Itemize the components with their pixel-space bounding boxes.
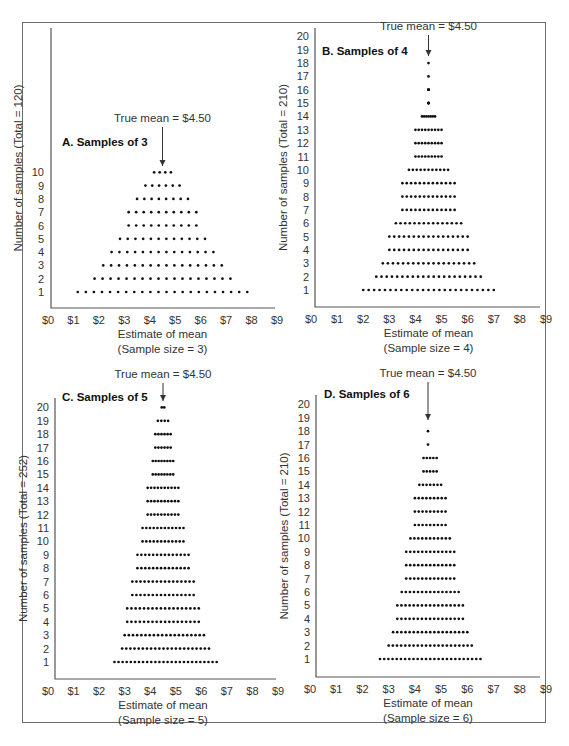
sample-dot xyxy=(408,658,411,661)
sample-dot xyxy=(165,237,168,240)
y-tick-label: 5 xyxy=(43,602,49,614)
sample-dot xyxy=(412,644,415,647)
sample-dot xyxy=(421,617,424,620)
axis-lines xyxy=(315,28,540,307)
sample-dot xyxy=(187,661,190,664)
y-tick-label: 2 xyxy=(38,273,44,285)
sample-dot xyxy=(445,591,448,594)
sample-dot xyxy=(392,631,395,634)
sample-dot xyxy=(151,473,154,476)
sample-dot xyxy=(178,634,181,637)
panel-title: B. Samples of 4 xyxy=(322,45,408,57)
sample-dot xyxy=(157,634,160,637)
sample-dot xyxy=(130,620,133,623)
y-tick-label: 4 xyxy=(38,246,44,258)
sample-dot xyxy=(396,275,399,278)
x-tick-label: $1 xyxy=(330,683,342,695)
sample-dot xyxy=(441,222,444,225)
sample-dot xyxy=(165,264,168,267)
sample-dot xyxy=(453,604,456,607)
x-tick-label: $6 xyxy=(461,683,473,695)
sample-dot xyxy=(395,289,398,292)
sample-dot xyxy=(142,251,145,254)
sample-dot xyxy=(392,262,395,265)
y-tick-label: 16 xyxy=(297,84,309,96)
sample-dot xyxy=(440,155,443,158)
sample-dot xyxy=(150,513,153,516)
sample-dot xyxy=(187,198,190,201)
sample-dot xyxy=(126,607,129,610)
sample-dot xyxy=(187,647,190,650)
sample-dot xyxy=(181,264,184,267)
sample-dot xyxy=(132,634,135,637)
sample-dot xyxy=(189,277,192,280)
sample-dot xyxy=(222,291,225,294)
sample-dot xyxy=(179,553,182,556)
sample-dot xyxy=(453,564,456,567)
sample-dot xyxy=(447,235,450,238)
sample-dot xyxy=(470,644,473,647)
sample-dot xyxy=(182,634,185,637)
sample-dot xyxy=(427,62,430,65)
sample-dot xyxy=(153,513,156,516)
y-tick-label: 10 xyxy=(297,164,309,176)
sample-dot xyxy=(437,591,440,594)
sample-dot xyxy=(136,553,139,556)
sample-dot xyxy=(443,169,446,172)
sample-dot xyxy=(173,634,176,637)
sample-dot xyxy=(436,209,439,212)
sample-dot xyxy=(414,142,417,145)
sample-dot xyxy=(453,550,456,553)
sample-dot xyxy=(429,577,432,580)
sample-dot xyxy=(449,289,452,292)
y-tick-label: 1 xyxy=(304,653,310,665)
sample-dot xyxy=(492,289,495,292)
sample-dot xyxy=(134,620,137,623)
sample-dot xyxy=(180,211,183,214)
sample-dot xyxy=(391,644,394,647)
sample-dot xyxy=(149,540,152,543)
sample-dot xyxy=(150,237,153,240)
sample-dot xyxy=(429,457,432,460)
sample-dot xyxy=(417,155,420,158)
sample-dot xyxy=(168,607,171,610)
sample-dot xyxy=(475,658,478,661)
sample-dot xyxy=(425,550,428,553)
sample-dot xyxy=(189,251,192,254)
sample-dot xyxy=(441,564,444,567)
sample-dot xyxy=(127,634,130,637)
sample-dot xyxy=(127,211,130,214)
sample-dot xyxy=(433,631,436,634)
sample-dot xyxy=(467,658,470,661)
y-tick-label: 5 xyxy=(304,599,310,611)
y-tick-label: 19 xyxy=(298,412,310,424)
x-tick-label: $2 xyxy=(356,683,368,695)
sample-dot xyxy=(178,540,181,543)
sample-dot xyxy=(422,457,425,460)
sample-dot xyxy=(408,249,411,252)
panel-title: A. Samples of 3 xyxy=(62,136,148,148)
sample-dot xyxy=(117,291,120,294)
sample-dot xyxy=(401,195,404,198)
sample-dot xyxy=(414,524,417,527)
sample-dot xyxy=(462,604,465,607)
x-tick-label: $8 xyxy=(514,313,526,325)
sample-dot xyxy=(405,195,408,198)
sample-dot xyxy=(424,128,427,131)
sample-dot xyxy=(176,620,179,623)
sample-dot xyxy=(400,591,403,594)
sample-dot xyxy=(432,275,435,278)
sample-dot xyxy=(172,460,175,463)
sample-dot xyxy=(154,661,157,664)
sample-dot xyxy=(417,564,420,567)
sample-dot xyxy=(125,647,128,650)
sample-dot xyxy=(427,102,430,105)
sample-dot xyxy=(384,289,387,292)
sample-dot xyxy=(453,577,456,580)
sample-dot xyxy=(427,182,430,185)
x-tick-label: $4 xyxy=(144,314,156,326)
sample-dot xyxy=(425,524,428,527)
sample-dot xyxy=(427,289,430,292)
sample-dot xyxy=(142,661,145,664)
sample-dot xyxy=(163,513,166,516)
